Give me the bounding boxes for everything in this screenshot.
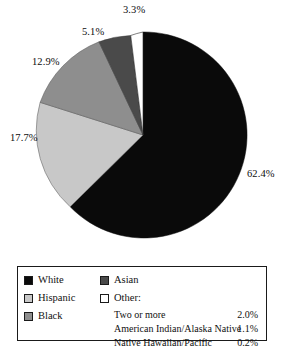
legend-column-right: Asian Other: Two or more 2.0% American I… <box>100 272 262 350</box>
chart-legend: White Hispanic Black Asian <box>17 266 267 341</box>
legend-item-hispanic[interactable]: Hispanic <box>24 290 96 306</box>
pie-chart-svg <box>0 0 288 262</box>
light-gray-swatch-icon <box>24 294 33 303</box>
pie-label-asian-percent: 5.1% <box>82 26 104 37</box>
legend-sublabel-two-or-more: Two or more <box>114 308 166 322</box>
legend-label-hispanic: Hispanic <box>38 292 75 304</box>
medium-gray-swatch-icon <box>24 312 33 321</box>
legend-item-black[interactable]: Black <box>24 308 96 324</box>
legend-label-other: Other: <box>114 292 141 304</box>
legend-label-asian: Asian <box>114 274 139 286</box>
legend-subvalue-american-indian-alaska-native: 1.1% <box>237 322 258 336</box>
legend-label-black: Black <box>38 310 63 322</box>
pie-label-black-percent: 12.9% <box>32 56 60 67</box>
pie-chart-plot-area: 3.3% 5.1% 12.9% 17.7% 62.4% <box>0 0 288 262</box>
legend-sublabel-american-indian-alaska-native: American Indian/Alaska Native <box>114 322 241 336</box>
pie-chart-figure: 3.3% 5.1% 12.9% 17.7% 62.4% White Hispan… <box>0 0 288 363</box>
legend-subvalue-two-or-more: 2.0% <box>237 308 258 322</box>
pie-label-white-percent: 62.4% <box>247 168 275 179</box>
legend-subvalue-native-hawaiian-pacific: 0.2% <box>237 336 258 350</box>
pie-label-hispanic-percent: 17.7% <box>10 132 38 143</box>
legend-subitem-two-or-more: Two or more 2.0% <box>100 308 262 322</box>
black-swatch-icon <box>24 276 33 285</box>
legend-item-other[interactable]: Other: <box>100 290 262 306</box>
legend-item-asian[interactable]: Asian <box>100 272 262 288</box>
pie-label-other-percent: 3.3% <box>123 4 145 15</box>
legend-subitem-american-indian-alaska-native: American Indian/Alaska Native 1.1% <box>100 322 262 336</box>
legend-sublabel-native-hawaiian-pacific: Native Hawaiian/Pacific <box>114 336 212 350</box>
white-swatch-icon <box>100 294 109 303</box>
legend-label-white: White <box>38 274 64 286</box>
dark-gray-swatch-icon <box>100 276 109 285</box>
legend-item-white[interactable]: White <box>24 272 96 288</box>
legend-column-left: White Hispanic Black <box>24 272 96 326</box>
legend-subitem-native-hawaiian-pacific: Native Hawaiian/Pacific 0.2% <box>100 336 262 350</box>
